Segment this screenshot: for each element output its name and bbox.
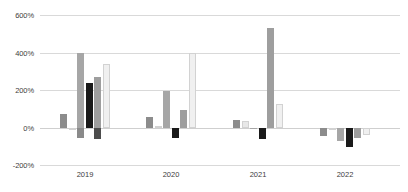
bar-2020-series-2 [155, 126, 162, 128]
bar-2020-series-5 [180, 110, 187, 128]
bar-2020-series-6 [189, 53, 196, 127]
bar-2019-series-4 [86, 83, 93, 127]
gridline-neg200 [40, 165, 400, 166]
bar-2022-series-6 [363, 128, 370, 136]
bar-2019-series-1 [60, 114, 67, 127]
x-axis-label-2019: 2019 [77, 170, 94, 179]
y-axis-label-0: 0% [0, 123, 34, 132]
x-axis-label-2020: 2020 [163, 170, 180, 179]
bar-2019-series-3 [77, 53, 84, 128]
bar-2022-series-3 [337, 128, 344, 141]
bar-2020-series-3 [163, 91, 170, 128]
bar-2020-series-4 [172, 128, 179, 138]
bar-2022-series-5 [354, 128, 361, 138]
bar-2021-series-5 [267, 28, 274, 127]
bar-2022-series-4 [346, 128, 353, 148]
y-axis-label-neg200: -200% [0, 161, 34, 170]
bar-2021-series-2 [242, 121, 249, 128]
y-axis-label-600: 600% [0, 11, 34, 20]
bar-2019-series-5 [94, 77, 101, 128]
bar-2019-series-2 [69, 128, 76, 130]
bar-2019-series-3b [77, 128, 84, 138]
x-axis-label-2021: 2021 [250, 170, 267, 179]
bar-2021-series-1 [233, 120, 240, 128]
bar-2021-series-6 [276, 104, 283, 127]
y-axis-label-200: 200% [0, 86, 34, 95]
bar-2019-series-4b [94, 128, 101, 139]
bar-2021-series-3 [250, 128, 257, 129]
x-axis-label-2022: 2022 [337, 170, 354, 179]
bar-2022-series-2 [329, 128, 336, 130]
bar-2021-series-4 [259, 128, 266, 139]
bar-2019-series-6 [103, 64, 110, 128]
gridline-600 [40, 15, 400, 16]
y-axis-label-400: 400% [0, 48, 34, 57]
gridline-400 [40, 53, 400, 54]
bar-2022-series-1 [320, 128, 327, 136]
bar-2020-series-1 [146, 117, 153, 127]
plot-area [40, 15, 400, 165]
bar-chart: 600% 400% 200% 0% -200% 2019 2020 2021 2… [0, 0, 408, 192]
